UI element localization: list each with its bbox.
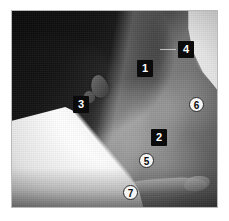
marker-2[interactable]: 2	[151, 129, 167, 146]
marker-7[interactable]: 7	[123, 185, 138, 200]
marker-6[interactable]: 6	[189, 97, 204, 112]
figure-page: 1 2 3 4 5 6 7	[0, 0, 229, 221]
anatomy-photograph: 1 2 3 4 5 6 7	[12, 11, 217, 207]
leader-line-4	[160, 49, 176, 50]
marker-3[interactable]: 3	[73, 96, 89, 113]
marker-5[interactable]: 5	[139, 153, 154, 168]
marker-1[interactable]: 1	[137, 60, 153, 77]
figure-frame: 1 2 3 4 5 6 7	[11, 10, 218, 208]
marker-4[interactable]: 4	[178, 41, 194, 58]
